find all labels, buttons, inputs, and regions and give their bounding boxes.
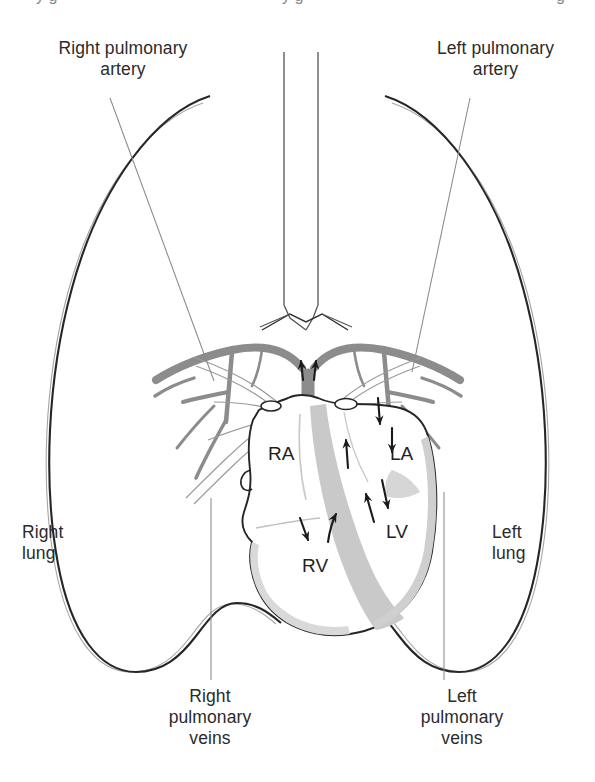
label-left-atrium: LA — [390, 444, 413, 464]
trachea-right-wall — [306, 52, 318, 330]
leader-left-pulmonary-artery — [412, 98, 470, 372]
label-right-atrium: RA — [268, 444, 294, 464]
trachea-and-bronchi — [260, 52, 352, 330]
left-main-bronchus — [322, 314, 352, 327]
label-right-pulmonary-veins: Right pulmonary veins — [142, 686, 278, 749]
cropped-text-fragment-right: g — [556, 0, 565, 5]
label-right-pulmonary-artery: Right pulmonary artery — [28, 38, 218, 80]
aorta-ostium — [335, 399, 357, 410]
rpa-branch-6 — [252, 350, 262, 386]
label-left-pulmonary-veins: Left pulmonary veins — [398, 686, 526, 749]
label-left-pulmonary-artery: Left pulmonary artery — [408, 38, 583, 80]
label-right-lung: Right lung — [22, 522, 126, 564]
lpa-branch-2 — [388, 392, 433, 402]
carina-outline — [262, 314, 348, 330]
trachea-left-wall — [284, 52, 306, 330]
label-left-ventricle: LV — [386, 522, 408, 542]
heart — [241, 395, 437, 635]
lpa-branch-6 — [354, 350, 364, 386]
right-lung-outline — [49, 96, 281, 672]
heart-lungs-diagram — [0, 0, 595, 782]
svc-ostium — [261, 401, 281, 411]
label-right-ventricle: RV — [302, 556, 328, 576]
right-main-bronchus — [260, 314, 290, 327]
cropped-text-fragment-left: y g — [36, 0, 57, 5]
cropped-text-fragment-center: y g — [282, 0, 303, 5]
label-left-lung: Left lung — [492, 522, 588, 564]
